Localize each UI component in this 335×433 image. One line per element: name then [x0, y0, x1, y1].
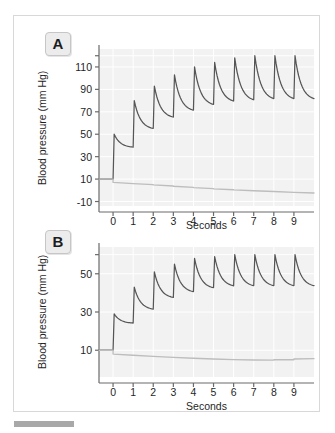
svg-text:90: 90 — [80, 83, 92, 95]
panel-b-plot: 1030500123456789Seconds — [14, 229, 321, 413]
panel-b: B Blood pressure (mm Hg) 103050012345678… — [14, 229, 321, 413]
svg-text:2: 2 — [150, 386, 156, 398]
svg-text:9: 9 — [291, 386, 297, 398]
svg-text:1: 1 — [130, 215, 136, 227]
svg-text:7: 7 — [251, 386, 257, 398]
svg-text:Seconds: Seconds — [186, 400, 227, 412]
svg-text:8: 8 — [271, 386, 277, 398]
svg-text:6: 6 — [231, 386, 237, 398]
svg-text:5: 5 — [211, 386, 217, 398]
svg-text:10: 10 — [80, 344, 92, 356]
svg-text:0: 0 — [110, 215, 116, 227]
svg-text:30: 30 — [80, 306, 92, 318]
svg-text:6: 6 — [231, 215, 237, 227]
svg-text:-10: -10 — [77, 196, 92, 208]
svg-text:110: 110 — [75, 61, 92, 73]
svg-text:8: 8 — [271, 215, 277, 227]
svg-text:4: 4 — [191, 386, 197, 398]
caption-rule — [14, 421, 74, 427]
figure-frame: A Blood pressure (mm Hg) -10103050709011… — [13, 15, 320, 412]
svg-text:50: 50 — [80, 128, 92, 140]
panel-a: A Blood pressure (mm Hg) -10103050709011… — [14, 16, 321, 229]
svg-text:9: 9 — [291, 215, 297, 227]
svg-text:10: 10 — [80, 173, 92, 185]
svg-text:Seconds: Seconds — [186, 219, 227, 229]
svg-text:70: 70 — [80, 106, 92, 118]
svg-text:50: 50 — [80, 268, 92, 280]
svg-text:0: 0 — [110, 386, 116, 398]
svg-text:3: 3 — [170, 386, 176, 398]
panel-a-plot: -1010305070901100123456789Seconds — [14, 16, 321, 229]
svg-text:1: 1 — [130, 386, 136, 398]
svg-text:3: 3 — [170, 215, 176, 227]
svg-text:7: 7 — [251, 215, 257, 227]
svg-text:30: 30 — [80, 151, 92, 163]
svg-text:2: 2 — [150, 215, 156, 227]
